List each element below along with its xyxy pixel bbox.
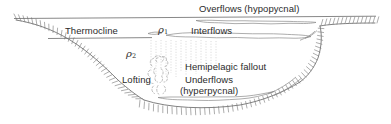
density-symbol-rho2: ρ2 [126,48,136,60]
label-underflows: Underflows [185,75,233,85]
density-symbol-rho1: ρ1 [158,24,168,36]
overflow-plume-lens [196,20,316,24]
label-thermocline: Thermocline [65,26,118,36]
label-overflows: Overflows (hypopycnal) [199,4,299,14]
label-lofting: Lofting [122,75,151,85]
water-surface-line [14,16,376,18]
label-hemipelagic-fallout: Hemipelagic fallout [185,62,266,72]
rho2-subscript: 2 [132,52,136,60]
label-hyperpycnal: (hyperpycnal) [180,86,238,96]
right-shelf [320,23,375,26]
label-interflows: Interflows [191,26,232,36]
thermocline-line [48,38,152,39]
interflow-plume-lens [148,31,317,41]
diagram-container: Overflows (hypopycnal) Interflows Thermo… [0,0,391,124]
rho1-subscript: 1 [164,28,168,36]
